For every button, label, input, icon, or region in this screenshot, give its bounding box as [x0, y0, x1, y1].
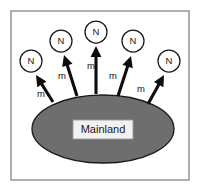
island-node-label: N	[166, 55, 173, 66]
island-node-label: N	[130, 35, 137, 46]
migration-rate-label: m	[58, 70, 66, 81]
island-node: N	[85, 21, 107, 43]
island-node: N	[158, 50, 180, 72]
island-node-label: N	[28, 55, 35, 66]
migration-rate-label: m	[137, 83, 145, 94]
island-node: N	[122, 30, 144, 52]
migration-rate-label: m	[87, 60, 95, 71]
figure-root: mmmmm NNNNN Mainland	[0, 0, 200, 191]
mainland-migration-diagram: mmmmm NNNNN Mainland	[0, 0, 200, 191]
island-node: N	[50, 30, 72, 52]
mainland-label: Mainland	[81, 123, 126, 135]
island-node: N	[20, 50, 42, 72]
island-node-label: N	[93, 26, 100, 37]
migration-rate-label: m	[109, 70, 117, 81]
island-node-label: N	[58, 35, 65, 46]
migration-rate-label: m	[37, 88, 45, 99]
